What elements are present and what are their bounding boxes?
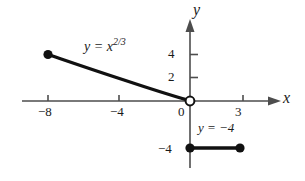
curve-x-two-thirds	[48, 55, 188, 101]
y-tick-label-minus-4: −4	[158, 142, 172, 155]
segment-equation-label: y = −4	[198, 121, 234, 134]
y-tick-label-2: 2	[168, 70, 175, 83]
curve-equation-exponent: 2/3	[113, 36, 126, 47]
endpoint-filled-left	[43, 50, 52, 59]
y-tick-label-4: 4	[168, 47, 175, 60]
x-tick-label-minus-8: −8	[38, 105, 52, 118]
x-tick-label-0: 0	[178, 105, 185, 118]
curve-equation-label: y = x2/3	[84, 37, 126, 54]
x-axis	[22, 97, 281, 106]
x-axis-ticks	[48, 95, 243, 101]
endpoint-filled-segment-left	[185, 143, 194, 152]
y-axis-ticks	[190, 55, 198, 78]
x-axis-label: x	[283, 90, 290, 106]
piecewise-function-graph: y x 4 2 −4 −8 −4 0 3 y = x2/3 y = −4	[0, 0, 305, 181]
endpoint-open-origin	[186, 97, 195, 106]
y-axis-label: y	[193, 2, 200, 18]
x-tick-label-3: 3	[235, 105, 242, 118]
curve-equation-base: y = x	[84, 39, 113, 54]
plot-area	[0, 0, 305, 181]
x-tick-label-minus-4: −4	[110, 105, 124, 118]
endpoint-filled-segment-right	[235, 143, 244, 152]
